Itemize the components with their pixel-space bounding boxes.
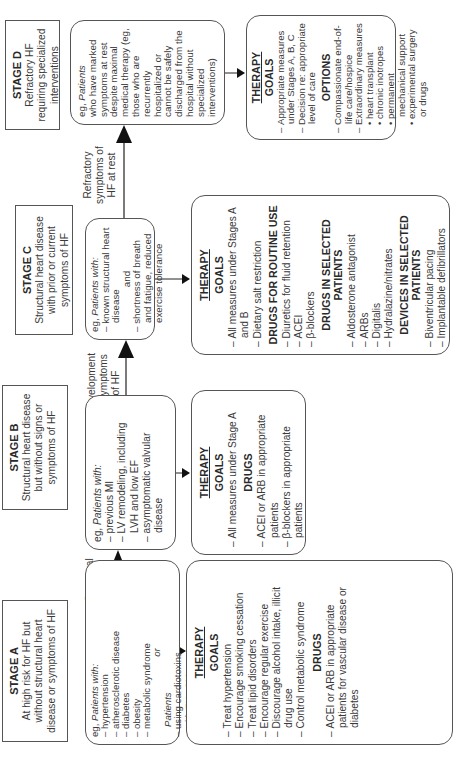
stage-c-therapy-box: THERAPY GOALS All measures under Stages …: [191, 195, 450, 355]
stage-a-goal: Treat lipid disorders: [247, 568, 259, 737]
stage-a-goal: Encourage smoking cessation: [234, 568, 246, 737]
stage-a-goal: Encourage regular exercise: [259, 568, 271, 737]
stage-c-title: STAGE C: [21, 210, 33, 330]
stage-d-therapy-title: THERAPY: [251, 22, 262, 133]
stage-a-goal: Discourage alcohol intake, illicit drug …: [271, 568, 295, 737]
stage-d-title: STAGE D: [11, 25, 23, 125]
stage-d-header: STAGE D Refractory HF requiring speciali…: [5, 20, 60, 130]
patients-to-therapy-arrow-d: [225, 68, 245, 78]
stage-b-drug: β-blockers in appropriate patients: [281, 398, 305, 547]
stage-c-selected-drug: ARBs: [359, 203, 371, 347]
stage-a-drugs-heading: DRUGS: [311, 568, 323, 737]
stage-d-goals-heading: GOALS: [263, 22, 275, 133]
transition-label-c-d: Refractory symptoms of HF at rest: [82, 140, 118, 210]
transition-arrow-c-d: [116, 125, 132, 218]
stage-d-patients-box: eg, Patients who have marked symptoms at…: [70, 20, 225, 125]
stage-d-options-heading: OPTIONS: [320, 22, 332, 133]
stage-d-goal: Decision re: appropriate level of care: [297, 22, 318, 133]
stage-c-therapy-title: THERAPY: [198, 203, 210, 347]
stage-d-goal: Appropriate measures under Stages A, B, …: [276, 22, 297, 133]
stage-c-selected-drug: Hydralazine/nitrates: [383, 203, 395, 347]
stage-c-goals-heading: GOALS: [213, 203, 225, 347]
stage-d-eg: eg,: [76, 103, 87, 117]
stage-b-therapy-title: THERAPY: [198, 398, 210, 547]
stage-b-drugs-heading: DRUGS: [242, 398, 254, 547]
stage-c-patient-item: shortness of breath and fatigue, reduced…: [132, 226, 164, 332]
stage-a-description: At high risk for HF but without structur…: [21, 605, 58, 737]
stage-a-patients-box: eg, Patients with: hypertension atherosc…: [85, 560, 180, 745]
stage-a-eg: eg,: [89, 724, 100, 737]
stage-a-title: STAGE A: [8, 605, 20, 737]
stage-d-patient-description: who have marked symptoms at rest despite…: [88, 28, 218, 117]
stage-a-goal: Control metabolic syndrome: [295, 568, 307, 737]
stage-c-routine-drug: β-blockers: [305, 203, 317, 347]
stage-c-selected-drug: Aldosterone antagonist: [346, 203, 358, 347]
stage-b-patients-label: Patients with:: [92, 464, 103, 525]
stage-a-header: STAGE A At high risk for HF but without …: [2, 600, 68, 742]
stage-d-patients-label: Patients: [76, 65, 87, 100]
stage-b-title: STAGE B: [8, 390, 20, 505]
stage-c-description: Structural heart disease with prior or c…: [34, 210, 71, 330]
stage-c-routine-drug: ACEI: [293, 203, 305, 347]
stage-b-goals-heading: GOALS: [213, 398, 225, 547]
stage-c-selected-drugs-heading: DRUGS IN SELECTED PATIENTS: [320, 203, 344, 347]
stage-c-selected-drug: Digitalis: [371, 203, 383, 347]
stage-d-extraordinary-item: experimental surgery or drugs: [407, 22, 428, 133]
stage-c-patient-item: known structural heart disease: [101, 226, 122, 332]
stage-c-device: Implantable defibrillators: [436, 203, 448, 347]
stage-a-drug: ACEI or ARB in appropriate patients for …: [325, 568, 362, 737]
stage-c-goal: Dietary salt restriction: [252, 203, 264, 347]
stage-d-description: Refractory HF requiring specialized inte…: [24, 25, 61, 125]
patients-to-therapy-arrow-b: [176, 468, 190, 478]
stage-a-therapy-box: THERAPY GOALS Treat hypertension Encoura…: [186, 560, 453, 745]
stage-b-drug: ACEI or ARB in appropriate patients: [256, 398, 280, 547]
stage-c-routine-drugs-heading: DRUGS FOR ROUTINE USE: [267, 203, 279, 347]
stage-b-eg: eg,: [92, 528, 103, 542]
stage-c-patients-box: eg, Patients with: known structural hear…: [85, 218, 155, 340]
stage-c-goal: All measures under Stages A and B: [227, 203, 251, 347]
stage-b-patient-item: LV remodeling, including LVH and low EF: [116, 403, 140, 542]
stage-c-patients-label: Patients with:: [89, 257, 100, 315]
stage-a-patients-label: Patients with:: [89, 664, 100, 721]
stage-a-goals-heading: GOALS: [208, 568, 220, 737]
stage-b-therapy-box: THERAPY GOALS All measures under Stage A…: [191, 390, 306, 555]
stage-c-header: STAGE C Structural heart disease with pr…: [15, 205, 73, 335]
heart-failure-stages-diagram: Structural heart disease Development of …: [0, 0, 453, 766]
stage-c-device: Biventricular pacing: [424, 203, 436, 347]
stage-b-description: Structural heart disease but without sig…: [21, 390, 58, 505]
stage-c-devices-heading: DEVICES IN SELECTED PATIENTS: [398, 203, 422, 347]
stage-b-patient-item: asymptomatic valvular disease: [141, 403, 165, 542]
stage-b-goal: All measures under Stage A: [227, 398, 239, 547]
stage-a-goal: Treat hypertension: [222, 568, 234, 737]
stage-b-patients-box: eg, Patients with: previous MI LV remode…: [85, 395, 176, 550]
stage-a-therapy-title: THERAPY: [193, 568, 205, 737]
stage-b-patient-item: previous MI: [104, 403, 116, 542]
stage-c-routine-drug: Diuretics for fluid retention: [281, 203, 293, 347]
stage-b-header: STAGE B Structural heart disease but wit…: [2, 385, 68, 510]
stage-d-extraordinary-item: permanent mechanical support: [386, 22, 407, 133]
stage-d-therapy-box: THERAPY GOALS Appropriate measures under…: [246, 15, 396, 140]
stage-d-option: Compassionate end-of-life care/hospice: [333, 22, 354, 133]
stage-c-eg: eg,: [89, 318, 100, 332]
